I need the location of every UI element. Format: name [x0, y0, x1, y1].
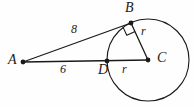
label-point-C: C [157, 51, 166, 65]
label-length-AB: 8 [71, 23, 77, 35]
point-B-dot [129, 21, 134, 26]
point-C-dot [146, 58, 151, 63]
segment-AB [23, 23, 131, 62]
label-point-A: A [8, 53, 17, 67]
point-A-dot [21, 60, 26, 65]
label-length-AD: 6 [60, 63, 66, 75]
segment-AC [23, 60, 148, 62]
label-point-D: D [98, 63, 108, 77]
label-radius-BC: r [141, 25, 146, 37]
geometry-figure: A B C D 8 6 r r [0, 0, 194, 107]
label-radius-DC: r [122, 63, 127, 75]
label-point-B: B [125, 1, 134, 15]
